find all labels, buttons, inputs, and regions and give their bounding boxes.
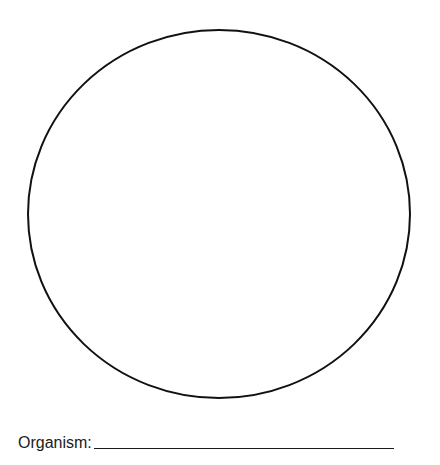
observation-circle	[28, 30, 410, 398]
organism-blank-line[interactable]	[94, 432, 394, 449]
organism-label: Organism:	[18, 434, 92, 452]
drawing-circle-area	[0, 0, 440, 410]
organism-field: Organism:	[18, 430, 428, 452]
